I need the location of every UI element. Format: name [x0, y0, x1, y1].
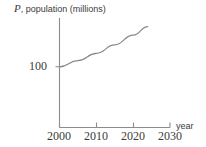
y-axis-caption: P, population (millions) — [14, 3, 106, 14]
x-tick-label-2020: 2020 — [121, 130, 145, 142]
population-growth-chart: P, population (millions) 100 2000 2010 2… — [0, 0, 206, 147]
x-tick-label-2010: 2010 — [84, 130, 108, 142]
x-tick-label-2030: 2030 — [158, 130, 182, 142]
y-axis-variable: P — [14, 2, 21, 14]
x-axis-caption: year — [176, 122, 194, 131]
population-curve — [60, 27, 148, 67]
x-tick-label-2000: 2000 — [47, 130, 71, 142]
y-axis-caption-rest: , population (millions) — [21, 4, 106, 14]
y-tick-label-100: 100 — [29, 60, 47, 72]
